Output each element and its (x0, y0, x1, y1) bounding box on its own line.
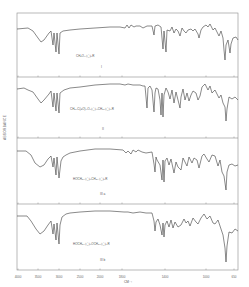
x-axis-ticks (18, 76, 234, 271)
spectrum-IIIb (17, 211, 238, 262)
spectrum-IIIa (17, 149, 238, 190)
spectra-traces (17, 24, 238, 262)
x-tick-label: 1800 (119, 275, 126, 279)
y-axis-label: ABSORBANCE (3, 115, 7, 140)
compound-label-I: I (101, 65, 102, 69)
x-tick-label: 4000 (15, 275, 22, 279)
ir-spectra-figure (0, 0, 249, 287)
x-tick-label: 3000 (56, 275, 63, 279)
x-tick-label: 3500 (35, 275, 42, 279)
compound-label-IIIb: III b (100, 258, 105, 262)
compound-label-II: II (102, 127, 104, 131)
x-tick-label: 2000 (97, 275, 104, 279)
x-tick-label: 1000 (203, 275, 210, 279)
x-tick-label: 2500 (77, 275, 84, 279)
x-axis-label: CM⁻¹ (124, 280, 132, 284)
spectrum-I (17, 24, 238, 60)
panel-dividers (17, 77, 238, 204)
spectrum-II (17, 84, 238, 121)
x-tick-label: 1400 (162, 275, 169, 279)
structure-IIIa: HOCH₂–⟨◯⟩–CH₂–⟨◯⟩–R (73, 177, 107, 181)
compound-label-IIIa: III a (100, 192, 105, 196)
plot-frame (17, 13, 238, 270)
structure-II: CH₃–C(=O)–O–⟨◯⟩–CH₂–⟨◯⟩–R (70, 107, 114, 111)
structure-I: CH₃O–⟨◯⟩–R (76, 54, 94, 58)
x-tick-label: 650 (231, 275, 236, 279)
structure-IIIb: HOCH₂–⟨◯⟩–OCH₂–⟨◯⟩–R (73, 242, 110, 246)
